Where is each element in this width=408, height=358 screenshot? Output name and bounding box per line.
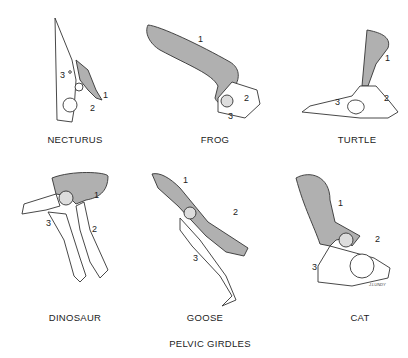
label-frog: FROG <box>185 134 245 145</box>
turtle-callout-1: 1 <box>385 53 390 63</box>
turtle-callout-2: 2 <box>384 93 389 103</box>
frog-drawing <box>147 25 260 118</box>
cat-callout-1: 1 <box>338 198 343 208</box>
necturus-callout-2: 2 <box>90 103 95 113</box>
label-goose: GOOSE <box>175 312 235 323</box>
cat-callout-2: 2 <box>375 234 380 244</box>
turtle-drawing <box>302 30 398 118</box>
cat-callout-3: 3 <box>312 262 317 272</box>
label-dinosaur: DINOSAUR <box>40 312 110 323</box>
goose-drawing <box>152 174 248 306</box>
frog-callout-2: 2 <box>244 93 249 103</box>
artist-signature: J.LUNDY <box>369 282 386 287</box>
goose-callout-1: 1 <box>183 175 188 185</box>
pelvic-girdles-illustration <box>0 0 408 358</box>
label-necturus: NECTURUS <box>40 134 110 145</box>
dinosaur-callout-2: 2 <box>92 224 97 234</box>
goose-callout-2: 2 <box>233 207 238 217</box>
frog-callout-1: 1 <box>198 34 203 44</box>
dinosaur-callout-3: 3 <box>46 218 51 228</box>
cat-drawing <box>296 175 390 286</box>
frog-callout-3: 3 <box>228 111 233 121</box>
dinosaur-callout-1: 1 <box>94 190 99 200</box>
turtle-callout-3: 3 <box>335 97 340 107</box>
label-turtle: TURTLE <box>327 134 387 145</box>
necturus-callout-3: 3 <box>60 70 65 80</box>
figure-title: PELVIC GIRDLES <box>150 338 270 349</box>
goose-callout-3: 3 <box>193 253 198 263</box>
label-cat: CAT <box>330 312 390 323</box>
necturus-callout-1: 1 <box>103 90 108 100</box>
